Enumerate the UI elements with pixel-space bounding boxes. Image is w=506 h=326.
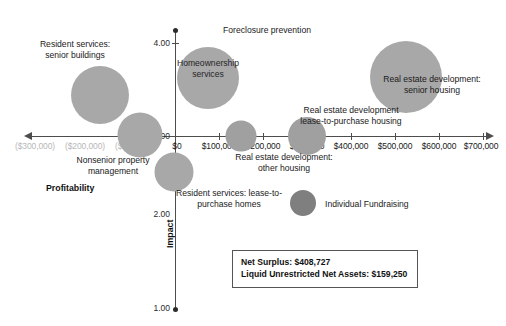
summary-note-box: Net Surplus: $408,727 Liquid Unrestricte… [232, 250, 418, 288]
x-tick-700000 [483, 133, 484, 140]
label-line-2: other housing [235, 163, 332, 174]
x-tick-label-500000: $500,000 [378, 141, 413, 151]
label-resident-services-lease-to-purchase-homes: Resident services: lease-to- purchase ho… [176, 188, 282, 209]
bubble-individual-fundraising[interactable] [290, 190, 316, 216]
label-line-1: Real estate development: [383, 74, 480, 85]
bubble-nonsenior-property-management[interactable] [118, 113, 163, 158]
x-tick-label-0: $0 [172, 141, 181, 151]
label-individual-fundraising: Individual Fundraising [325, 199, 409, 210]
liquid-unrestricted-net-assets-text: Liquid Unrestricted Net Assets: $159,250 [241, 269, 409, 281]
label-foreclosure-prevention: Foreclosure prevention [223, 25, 311, 36]
net-surplus-text: Net Surplus: $408,727 [241, 257, 409, 269]
y-axis-title: Impact [165, 220, 175, 248]
label-line-1: Real estate development: [235, 152, 332, 163]
x-tick-label-neg300000: ($300,000) [15, 141, 55, 151]
x-axis-left-arrow-icon [24, 132, 32, 140]
label-line-2: senior housing [383, 85, 480, 96]
label-line-1: Nonsenior property [76, 155, 149, 166]
label-line-2: management [76, 166, 149, 177]
y-tick-label-4: 4.00 [140, 38, 170, 48]
x-tick-label-700000: $700,000 [464, 141, 499, 151]
x-tick-label-600000: $600,000 [422, 141, 457, 151]
label-line-2: purchase homes [176, 199, 282, 210]
label-real-estate-development-senior-housing: Real estate development: senior housing [383, 74, 480, 95]
label-real-estate-development-lease-to-purchase-housing: Real estate development lease-to-purchas… [300, 105, 401, 126]
x-tick-600000 [439, 133, 440, 140]
y-tick-4 [172, 43, 179, 44]
label-nonsenior-property-management: Nonsenior property management [76, 155, 149, 176]
x-axis-line [30, 136, 488, 137]
y-tick-3 [172, 136, 179, 137]
label-line-1: Resident services: [40, 39, 110, 50]
bubble-real-estate-development-other-housing[interactable] [226, 121, 257, 152]
label-line-2: senior buildings [40, 50, 110, 61]
x-tick-100000 [219, 133, 220, 140]
y-axis-bottom-dot-icon [173, 307, 178, 312]
label-line-1: Homeownership [177, 58, 239, 69]
y-tick-label-1: 1.00 [140, 303, 170, 313]
label-resident-services-senior-buildings: Resident services: senior buildings [40, 39, 110, 60]
x-tick-200000 [263, 133, 264, 140]
y-axis-top-dot-icon [173, 28, 178, 33]
y-tick-label-2: 2.00 [140, 209, 170, 219]
label-homeownership-services: Homeownership services [177, 58, 239, 79]
bubble-resident-services-lease-to-purchase-homes[interactable] [155, 153, 194, 192]
x-tick-500000 [395, 133, 396, 140]
bubble-resident-services-senior-buildings[interactable] [71, 66, 129, 124]
label-line-1: Real estate development [300, 105, 401, 116]
label-line-2: services [177, 69, 239, 80]
label-line-2: lease-to-purchase housing [300, 116, 401, 127]
label-line-1: Resident services: lease-to- [176, 188, 282, 199]
x-tick-label-400000: $400,000 [334, 141, 369, 151]
x-tick-400000 [351, 133, 352, 140]
x-axis-right-arrow-icon [486, 132, 494, 140]
x-axis-title: Profitability [46, 183, 94, 193]
bubble-chart-canvas: ($300,000) ($200,000) ($100,000) $0 $100… [0, 0, 506, 326]
label-real-estate-development-other-housing: Real estate development: other housing [235, 152, 332, 173]
x-tick-label-neg200000: ($200,000) [65, 141, 105, 151]
